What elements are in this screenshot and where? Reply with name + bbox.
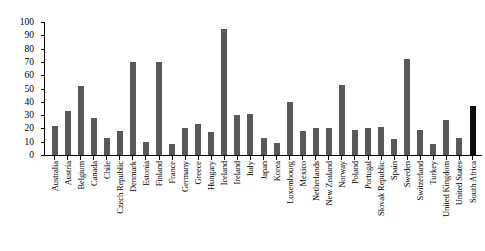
x-axis-tick (427, 156, 440, 160)
bar (208, 132, 214, 155)
x-axis-labels: AustraliaAustriaBelgiumCanadaChileCzech … (45, 161, 482, 251)
y-axis-tick-label: 20 (25, 123, 35, 133)
x-axis-tick (401, 156, 414, 160)
bar (352, 130, 358, 155)
x-axis-tick (113, 156, 126, 160)
x-axis-label-slot: Czech Republic (113, 161, 126, 251)
bar-chart: 0102030405060708090100 AustraliaAustriaB… (0, 0, 485, 251)
x-axis-tick (296, 156, 309, 160)
bar-slot (166, 22, 179, 155)
bar-slot (296, 22, 309, 155)
x-axis-label: United Kingdom (442, 161, 451, 217)
x-axis-label-slot: Turkey (427, 161, 440, 251)
x-axis-label-slot: South Africa (466, 161, 479, 251)
bar (65, 111, 71, 155)
x-axis-tick-mark (224, 156, 225, 160)
x-axis-tick (414, 156, 427, 160)
y-axis-tick-label: 90 (25, 30, 35, 40)
x-axis-tick (348, 156, 361, 160)
x-axis-label: Poland (350, 161, 359, 184)
x-axis-tick (388, 156, 401, 160)
x-axis-tick (153, 156, 166, 160)
x-axis-label-slot: Italy (244, 161, 257, 251)
x-axis-tick (362, 156, 375, 160)
bar-slot (453, 22, 466, 155)
x-axis-label: Denmark (128, 161, 137, 192)
x-axis-tick-mark (198, 156, 199, 160)
x-axis-label-slot: Greece (192, 161, 205, 251)
x-axis-tick (231, 156, 244, 160)
x-axis-tick (322, 156, 335, 160)
x-axis-tick-mark (368, 156, 369, 160)
x-axis-label: Czech Republic (115, 161, 124, 214)
x-axis-tick (453, 156, 466, 160)
x-axis-label-slot: Iceland (218, 161, 231, 251)
bar (52, 126, 58, 155)
y-axis-tick-label: 50 (25, 84, 35, 94)
x-axis-label: United States (455, 161, 464, 205)
x-axis-label-slot: Switzerland (414, 161, 427, 251)
bar (300, 131, 306, 155)
bar-slot (440, 22, 453, 155)
x-axis-tick-mark (276, 156, 277, 160)
x-axis-tick-mark (211, 156, 212, 160)
x-axis-label: Italy (246, 161, 255, 176)
bar-slot (283, 22, 296, 155)
bar (221, 29, 227, 155)
x-axis-ticks (45, 156, 482, 160)
x-axis-label: Turkey (429, 161, 438, 185)
x-axis-tick (244, 156, 257, 160)
x-axis-tick-mark (328, 156, 329, 160)
bar-slot (113, 22, 126, 155)
x-axis-tick-mark (159, 156, 160, 160)
y-axis-tick-label: 60 (25, 70, 35, 80)
bar (195, 124, 201, 155)
bar-slot (257, 22, 270, 155)
x-axis-label: Portugal (364, 161, 373, 189)
bar (117, 131, 123, 155)
x-axis-tick-mark (132, 156, 133, 160)
x-axis-tick-mark (459, 156, 460, 160)
x-axis-tick-mark (354, 156, 355, 160)
bar (417, 130, 423, 155)
bar (287, 102, 293, 155)
x-axis-label: Mexico (298, 161, 307, 186)
bar-slot (205, 22, 218, 155)
x-axis-tick (166, 156, 179, 160)
x-axis-tick (61, 156, 74, 160)
x-axis-label: Ireland (233, 161, 242, 184)
bar (326, 128, 332, 155)
bar-slot (309, 22, 322, 155)
bar (78, 86, 84, 155)
x-axis-label-slot: Denmark (126, 161, 139, 251)
x-axis-tick (466, 156, 479, 160)
x-axis-label: Slovak Republic (377, 161, 386, 216)
x-axis-label-slot: United Kingdom (440, 161, 453, 251)
bar (404, 59, 410, 155)
x-axis-label-slot: Norway (335, 161, 348, 251)
y-axis-tick-label: 30 (25, 110, 35, 120)
x-axis-label-slot: Australia (48, 161, 61, 251)
x-axis-label: Finland (155, 161, 164, 186)
x-axis-tick (270, 156, 283, 160)
x-axis-tick-mark (472, 156, 473, 160)
bar (91, 118, 97, 155)
x-axis-label: Norway (337, 161, 346, 188)
x-axis-label: France (168, 161, 177, 184)
bar (182, 128, 188, 155)
bar-slot (362, 22, 375, 155)
x-axis-tick-mark (145, 156, 146, 160)
x-axis-label: Canada (89, 161, 98, 186)
bar (130, 62, 136, 155)
bar (156, 62, 162, 155)
x-axis-label: Greece (194, 161, 203, 184)
bar-slot (335, 22, 348, 155)
bar-slot (388, 22, 401, 155)
bar-slot (126, 22, 139, 155)
bar-slot (427, 22, 440, 155)
x-axis-tick-mark (433, 156, 434, 160)
bar-slot (139, 22, 152, 155)
x-axis-tick (139, 156, 152, 160)
x-axis-label-slot: Sweden (401, 161, 414, 251)
bar (234, 115, 240, 155)
